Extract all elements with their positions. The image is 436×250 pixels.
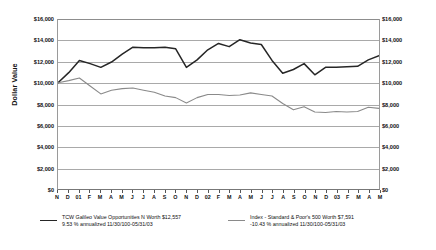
x-tick-label: F (346, 194, 349, 200)
chart-legend: TCW Galileo Value Opportunities N Worth … (0, 214, 436, 240)
y-tick-label: $12,000 (382, 59, 402, 65)
x-tick-label: N (55, 194, 59, 200)
series-line (58, 40, 379, 83)
legend-swatch-sp500 (228, 220, 245, 221)
y-tick-label: $14,000 (34, 37, 54, 43)
y-tick-label: $4,000 (37, 144, 54, 150)
y-tick-label: $16,000 (382, 16, 402, 22)
x-tick-mark (240, 190, 241, 193)
x-tick-label: A (367, 194, 371, 200)
x-tick-mark (186, 190, 187, 193)
x-tick-label: M (98, 194, 103, 200)
y-tick-label: $2,000 (37, 166, 54, 172)
x-tick-label: M (378, 194, 383, 200)
x-tick-label: 02 (205, 194, 211, 200)
y-tick-label: $8,000 (382, 102, 399, 108)
y-tick-label: $0 (48, 187, 54, 193)
x-tick-label: 03 (334, 194, 340, 200)
x-tick-label: M (119, 194, 124, 200)
y-tick-label: $6,000 (382, 123, 399, 129)
x-tick-mark (68, 190, 69, 193)
x-tick-label: S (163, 194, 167, 200)
x-tick-label: O (173, 194, 177, 200)
x-tick-mark (143, 190, 144, 193)
x-tick-mark (229, 190, 230, 193)
legend-label: Index - Standard & Poor's 500 Worth $7,5… (250, 214, 354, 228)
x-tick-mark (154, 190, 155, 193)
x-tick-label: A (152, 194, 156, 200)
x-tick-label: N (313, 194, 317, 200)
x-tick-label: J (260, 194, 263, 200)
x-tick-mark (348, 190, 349, 193)
x-tick-mark (111, 190, 112, 193)
legend-label-secondary: -10.43 % annualized 11/30/100-05/31/03 (250, 221, 354, 228)
x-tick-label: J (142, 194, 145, 200)
x-tick-label: A (238, 194, 242, 200)
x-tick-label: A (109, 194, 113, 200)
x-tick-label: D (66, 194, 70, 200)
x-tick-mark (175, 190, 176, 193)
x-tick-label: M (249, 194, 254, 200)
x-tick-label: A (281, 194, 285, 200)
legend-swatch-galileo (40, 220, 57, 221)
x-axis: ND01FMAMJJASOND02FMAMJJASOND03FMAM (57, 190, 380, 208)
x-tick-mark (272, 190, 273, 193)
legend-label-secondary: 9.53 % annualized 11/30/100-05/31/03 (62, 221, 181, 228)
x-tick-label: J (131, 194, 134, 200)
x-tick-mark (337, 190, 338, 193)
y-tick-label: $16,000 (34, 16, 54, 22)
x-tick-label: D (195, 194, 199, 200)
plot-area (57, 19, 380, 190)
y-axis-left-ticks: $0$2,000$4,000$6,000$8,000$10,000$12,000… (0, 0, 54, 250)
y-tick-label: $6,000 (37, 123, 54, 129)
legend-label-primary: TCW Galileo Value Opportunities N Worth … (62, 214, 181, 220)
y-tick-label: $10,000 (382, 80, 402, 86)
x-tick-label: N (184, 194, 188, 200)
series-lines (58, 19, 379, 189)
x-tick-mark (57, 190, 58, 193)
x-tick-mark (369, 190, 370, 193)
y-tick-label: $2,000 (382, 166, 399, 172)
y-tick-label: $8,000 (37, 102, 54, 108)
y-axis-right-ticks: $0$2,000$4,000$6,000$8,000$10,000$12,000… (382, 0, 436, 250)
y-tick-label: $0 (382, 187, 388, 193)
x-tick-label: J (271, 194, 274, 200)
x-tick-mark (208, 190, 209, 193)
legend-label-primary: Index - Standard & Poor's 500 Worth $7,5… (250, 214, 354, 220)
y-tick-label: $12,000 (34, 59, 54, 65)
series-line (58, 78, 379, 113)
x-tick-mark (100, 190, 101, 193)
x-tick-mark (79, 190, 80, 193)
x-tick-mark (380, 190, 381, 193)
x-tick-label: 01 (76, 194, 82, 200)
x-tick-mark (122, 190, 123, 193)
x-tick-label: F (88, 194, 91, 200)
y-tick-label: $10,000 (34, 80, 54, 86)
growth-of-10000-line-chart: Dollar Value $0$2,000$4,000$6,000$8,000$… (0, 0, 436, 250)
x-tick-mark (294, 190, 295, 193)
x-tick-label: M (356, 194, 361, 200)
x-tick-mark (89, 190, 90, 193)
x-tick-mark (305, 190, 306, 193)
x-tick-mark (165, 190, 166, 193)
x-tick-mark (326, 190, 327, 193)
x-tick-mark (358, 190, 359, 193)
x-tick-label: F (217, 194, 220, 200)
x-tick-mark (132, 190, 133, 193)
x-tick-mark (283, 190, 284, 193)
x-tick-label: M (227, 194, 232, 200)
x-tick-mark (219, 190, 220, 193)
x-tick-label: D (324, 194, 328, 200)
x-tick-mark (197, 190, 198, 193)
x-tick-mark (315, 190, 316, 193)
x-tick-mark (251, 190, 252, 193)
x-tick-mark (262, 190, 263, 193)
y-tick-label: $4,000 (382, 144, 399, 150)
x-tick-label: S (292, 194, 296, 200)
legend-label: TCW Galileo Value Opportunities N Worth … (62, 214, 181, 228)
x-tick-label: O (303, 194, 307, 200)
y-tick-label: $14,000 (382, 37, 402, 43)
